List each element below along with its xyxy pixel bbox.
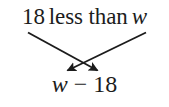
arrow-variable-to-left-position — [68, 33, 147, 71]
expression-left-term: w — [52, 71, 68, 97]
expression-right-term: 18 — [93, 71, 117, 97]
arrow-number-to-right-position — [28, 33, 98, 71]
phrase-translation-figure: 18less thanw w−18 — [0, 0, 169, 107]
expression-operator: − — [72, 71, 90, 97]
expression-text: w−18 — [0, 72, 169, 96]
